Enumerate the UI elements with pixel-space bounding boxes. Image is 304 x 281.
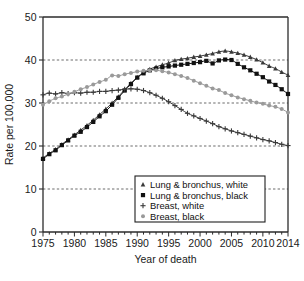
legend-marker-square-icon — [141, 193, 145, 197]
legend-marker-circle-icon — [141, 214, 145, 218]
y-tick-label: 50 — [25, 11, 37, 23]
x-tick-label: 1980 — [63, 237, 87, 249]
y-tick-label: 10 — [25, 183, 37, 195]
x-tick-label-group: 197519801985199019952000200520102014 — [31, 237, 300, 249]
legend-item-3[interactable]: Breast, white — [140, 200, 204, 211]
legend-item-1[interactable]: Lung & bronchus, white — [141, 179, 248, 190]
x-tick-label: 2000 — [188, 237, 212, 249]
x-axis-title: Year of death — [134, 253, 196, 265]
chart-legend[interactable]: Lung & bronchus, whiteLung & bronchus, b… — [135, 176, 265, 222]
y-axis-title: Rate per 100,000 — [3, 84, 15, 165]
x-tick-label: 2010 — [251, 237, 275, 249]
y-tick-label: 20 — [25, 140, 37, 152]
legend-label: Breast, white — [150, 200, 204, 211]
legend-label: Lung & bronchus, white — [150, 179, 248, 190]
figure-container: 197519801985199019952000200520102014 010… — [0, 0, 304, 281]
y-tick-label: 0 — [31, 226, 37, 238]
legend-label: Lung & bronchus, black — [150, 190, 248, 201]
x-tick-label: 1975 — [31, 237, 55, 249]
x-tick-label: 2005 — [220, 237, 244, 249]
mortality-rate-line-chart: 197519801985199019952000200520102014 010… — [0, 0, 304, 281]
y-tick-label: 40 — [25, 54, 37, 66]
x-tick-label: 2014 — [276, 237, 300, 249]
legend-item-4[interactable]: Breast, black — [141, 211, 205, 222]
x-tick-label: 1985 — [94, 237, 118, 249]
y-tick-label: 30 — [25, 97, 37, 109]
legend-item-2[interactable]: Lung & bronchus, black — [141, 190, 248, 201]
x-tick-label: 1990 — [126, 237, 150, 249]
legend-label: Breast, black — [150, 211, 205, 222]
x-tick-label: 1995 — [157, 237, 181, 249]
